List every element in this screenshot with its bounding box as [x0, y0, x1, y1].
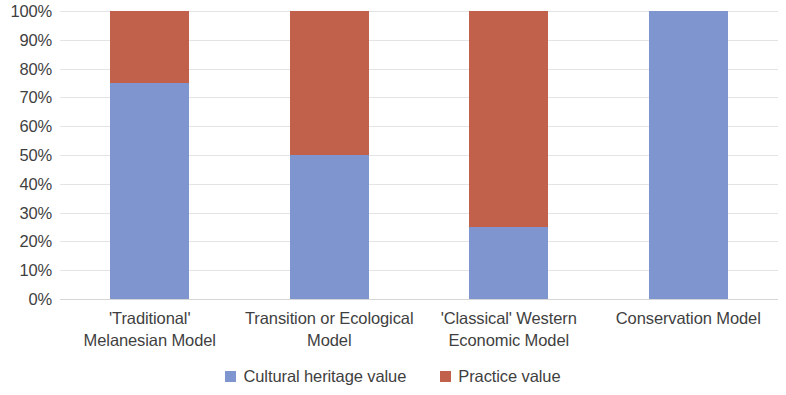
x-axis-label: 'Classical' WesternEconomic Model	[419, 308, 599, 352]
legend-item[interactable]: Cultural heritage value	[225, 368, 406, 385]
y-axis-tick-label: 100%	[11, 3, 52, 20]
x-axis-label-line: Economic Model	[419, 330, 599, 352]
x-axis-label: Conservation Model	[599, 308, 779, 330]
x-axis-label-line: Transition or Ecological	[240, 308, 420, 330]
blue-square-icon	[225, 371, 236, 382]
y-axis-tick-label: 10%	[20, 262, 52, 279]
y-axis-tick-label: 40%	[20, 176, 52, 193]
legend-item[interactable]: Practice value	[440, 368, 560, 385]
bar-segment-cultural-heritage-value	[110, 83, 189, 299]
red-square-icon	[440, 371, 451, 382]
x-axis-label-line: Conservation Model	[599, 308, 779, 330]
chart-legend: Cultural heritage valuePractice value	[0, 368, 786, 385]
plot-area	[60, 11, 778, 299]
x-axis-label-line: Model	[240, 330, 420, 352]
y-axis-tick-label: 0%	[29, 291, 52, 308]
x-axis-label: 'Traditional'Melanesian Model	[60, 308, 240, 352]
y-axis-tick-label: 70%	[20, 89, 52, 106]
x-axis-label-line: 'Traditional'	[60, 308, 240, 330]
bar-group	[649, 11, 728, 299]
bar-segment-practice-value	[469, 11, 548, 227]
legend-label: Practice value	[458, 368, 560, 385]
y-axis-tick-label: 30%	[20, 204, 52, 221]
y-axis-tick-label: 80%	[20, 60, 52, 77]
bar-group	[110, 11, 189, 299]
x-axis-label-line: Melanesian Model	[60, 330, 240, 352]
x-axis-label: Transition or EcologicalModel	[240, 308, 420, 352]
y-axis-tick-label: 20%	[20, 233, 52, 250]
x-axis-label-line: 'Classical' Western	[419, 308, 599, 330]
y-axis: 100%90%80%70%60%50%40%30%20%10%0%	[0, 11, 56, 299]
bar-segment-practice-value	[110, 11, 189, 83]
y-axis-tick-label: 60%	[20, 118, 52, 135]
bar-group	[469, 11, 548, 299]
y-axis-tick-label: 50%	[20, 147, 52, 164]
bar-segment-practice-value	[290, 11, 369, 155]
bar-segment-cultural-heritage-value	[649, 11, 728, 299]
y-axis-tick-label: 90%	[20, 32, 52, 49]
bar-segment-cultural-heritage-value	[290, 155, 369, 299]
legend-label: Cultural heritage value	[243, 368, 406, 385]
bar-segment-cultural-heritage-value	[469, 227, 548, 299]
bar-group	[290, 11, 369, 299]
stacked-bar-chart: 100%90%80%70%60%50%40%30%20%10%0% 'Tradi…	[0, 0, 786, 395]
x-axis-baseline	[60, 299, 778, 300]
x-axis-category-labels: 'Traditional'Melanesian ModelTransition …	[60, 308, 778, 360]
